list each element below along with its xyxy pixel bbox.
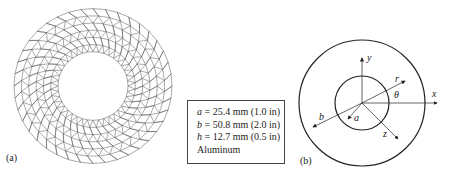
b-radius-label: b [319, 111, 324, 122]
a-radius-label: a [354, 112, 359, 123]
y-axis-label: y [367, 52, 371, 63]
material-label: Aluminum [197, 144, 284, 157]
r-axis-label: r [395, 73, 399, 84]
panel-b-label: (b) [300, 155, 312, 166]
property-h: h = 12.7 mm (0.5 in) [197, 131, 284, 144]
annulus-mesh [14, 9, 172, 164]
x-axis-label: x [432, 88, 436, 99]
panel-a-label: (a) [6, 152, 17, 163]
property-a: a = 25.4 mm (1.0 in) [197, 106, 284, 119]
z-axis-label: z [383, 128, 387, 139]
property-b: b = 50.8 mm (2.0 in) [197, 119, 284, 132]
properties-box: a = 25.4 mm (1.0 in) b = 50.8 mm (2.0 in… [187, 100, 285, 164]
theta-label: θ [394, 89, 399, 100]
